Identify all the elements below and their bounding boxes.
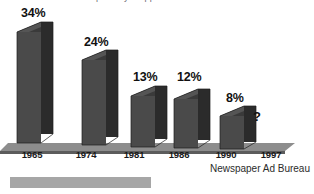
axis-label-1997: 1997 [249, 149, 293, 160]
redacted-caption-bar [10, 177, 151, 188]
bar-1974 [82, 50, 118, 145]
axis-label-1986: 1986 [157, 149, 201, 160]
value-label-1997-unknown: ? [253, 109, 261, 124]
axis-label-1981: 1981 [112, 149, 156, 160]
value-label-1965: 34% [21, 6, 45, 20]
value-label-1986: 12% [177, 70, 201, 84]
source-credit: Newspaper Ad Bureau [210, 163, 310, 174]
bar-1990 [220, 106, 256, 149]
chart-page: partially cropped headline text [0, 0, 314, 194]
axis-label-1974: 1974 [64, 149, 108, 160]
bar-chart: 34% 24% 13% 12% 8% ? 1965 1974 1981 1986… [0, 0, 314, 160]
bar-1986 [174, 89, 210, 148]
value-label-1981: 13% [133, 70, 157, 84]
axis-label-1965: 1965 [10, 149, 54, 160]
axis-label-1990: 1990 [204, 149, 248, 160]
value-label-1990: 8% [226, 91, 244, 105]
bar-1965 [17, 22, 53, 143]
value-label-1974: 24% [84, 35, 108, 49]
bar-1981 [131, 86, 167, 147]
